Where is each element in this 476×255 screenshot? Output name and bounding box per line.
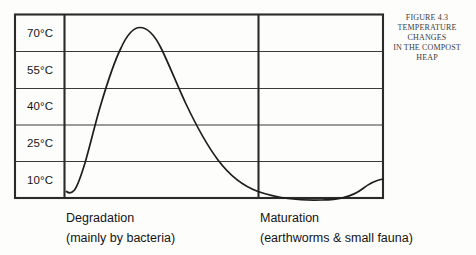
compost-temperature-figure: 70°C 55°C 40°C 25°C 10°C Degradation (ma…	[0, 0, 476, 255]
y-tick-label-10: 10°C	[27, 174, 53, 186]
y-tick-label-55: 55°C	[27, 64, 53, 76]
caption-line-2: TEMPERATURE	[398, 23, 457, 32]
chart-canvas: 70°C 55°C 40°C 25°C 10°C Degradation (ma…	[0, 0, 476, 255]
caption-line-5: HEAP	[416, 53, 438, 62]
chart-frame	[15, 15, 383, 199]
phase-label-maturation: Maturation	[260, 211, 319, 225]
phase-detail-degradation: (mainly by bacteria)	[66, 231, 175, 245]
phase-label-degradation: Degradation	[66, 211, 134, 225]
y-tick-label-70: 70°C	[27, 27, 53, 39]
phase-labels: Degradation (mainly by bacteria) Maturat…	[66, 211, 413, 245]
figure-caption: FIGURE 4.3 TEMPERATURE CHANGES IN THE CO…	[393, 13, 461, 62]
y-tick-label-40: 40°C	[27, 100, 53, 112]
caption-line-3: CHANGES	[408, 33, 447, 42]
phase-detail-maturation: (earthworms & small fauna)	[260, 231, 413, 245]
caption-line-1: FIGURE 4.3	[406, 13, 448, 22]
grid-lines	[15, 52, 383, 162]
y-tick-label-25: 25°C	[27, 137, 53, 149]
y-axis-tick-labels: 70°C 55°C 40°C 25°C 10°C	[27, 27, 53, 186]
temperature-curve	[67, 28, 384, 201]
caption-line-4: IN THE COMPOST	[393, 43, 461, 52]
